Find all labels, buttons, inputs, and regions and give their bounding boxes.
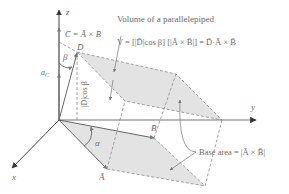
alpha-label: α	[95, 138, 100, 148]
vector-a-label: Ā	[98, 172, 105, 182]
y-axis-label: y	[250, 102, 255, 112]
base-parallelogram	[59, 120, 205, 186]
unit-vector-label: aC	[41, 68, 50, 78]
height-label: |D̄|cos β	[80, 81, 89, 107]
x-axis-label: x	[11, 172, 16, 182]
vector-d-label: D̄	[76, 42, 84, 52]
parallelepiped-diagram: z y x Volume of a parallelepiped V = [|D…	[0, 0, 289, 194]
base-area-label: Base area = |Ā × B̄|	[199, 147, 265, 157]
vector-d	[59, 53, 77, 120]
title-label: Volume of a parallelepiped	[117, 14, 215, 24]
z-axis-label: z	[65, 7, 70, 17]
beta-label: β	[62, 52, 68, 62]
formula-label: V = [|D̄|cos β] [|Ā × B̄|] = D̄·Ā × B̄	[117, 37, 236, 47]
x-axis	[12, 120, 59, 168]
cross-product-label: C̄ = Ā × B̄	[65, 29, 101, 39]
vector-b-label: B̄	[151, 123, 157, 133]
top-parallelogram	[77, 52, 222, 120]
beta-arc	[59, 63, 72, 68]
